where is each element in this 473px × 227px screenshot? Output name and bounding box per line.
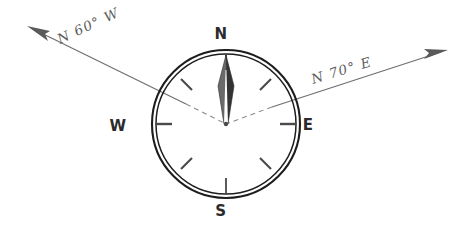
ray-dashed-n60w [186,104,226,124]
tick-nw [181,79,192,90]
needle-right-facet [226,55,234,124]
needle-left-facet [218,55,226,124]
bearing-ray-n70e [226,49,448,124]
cardinal-label-north: N [214,25,227,43]
arrowhead-n60w [27,26,50,41]
compass-diagram-svg: N E S W N 60° W N 70° E [0,0,473,227]
arrowhead-n70e [424,49,448,59]
needle-hub [224,122,228,126]
tick-ne [260,79,271,90]
compass-figure: N E S W N 60° W N 70° E [0,0,473,227]
tick-se [260,158,271,169]
cardinal-label-west: W [109,117,126,135]
ray-dashed-n70e [226,107,272,124]
bearing-label-n60w: N 60° W [54,4,122,47]
bearing-label-n70e: N 70° E [308,53,373,87]
tick-sw [181,158,192,169]
cardinal-label-east: E [303,116,314,134]
cardinal-label-south: S [215,202,226,220]
bearing-ray-n60w [27,26,226,124]
